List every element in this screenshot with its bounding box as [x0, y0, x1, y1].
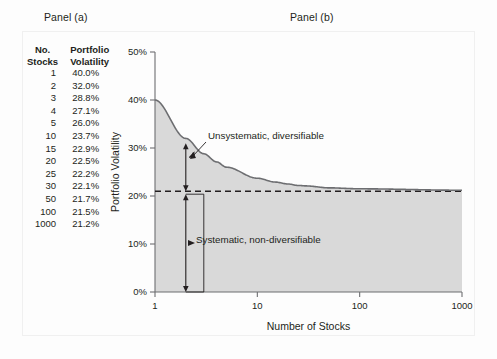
- table-row: 140.0%: [24, 67, 112, 80]
- cell-portfolio-volatility: 26.0%: [66, 117, 112, 130]
- table-row: 232.0%: [24, 80, 112, 93]
- cell-portfolio-volatility: 40.0%: [66, 67, 112, 80]
- table-row: 5021.7%: [24, 193, 112, 206]
- cell-no-stocks: 50: [24, 193, 66, 206]
- table-row: 1522.9%: [24, 143, 112, 156]
- panel-b-title: Panel (b): [290, 11, 334, 23]
- table-row: 100021.2%: [24, 218, 112, 231]
- cell-no-stocks: 1: [24, 67, 66, 80]
- table-body: 140.0%232.0%328.8%427.1%526.0%1023.7%152…: [24, 67, 112, 231]
- cell-portfolio-volatility: 28.8%: [66, 92, 112, 105]
- header-portfolio-volatility: Portfolio Volatility: [66, 44, 112, 67]
- cell-no-stocks: 10: [24, 130, 66, 143]
- cell-portfolio-volatility: 22.9%: [66, 143, 112, 156]
- cell-no-stocks: 100: [24, 206, 66, 219]
- header-portfolio-volatility-line1: Portfolio: [70, 44, 109, 56]
- table-row: 2022.5%: [24, 155, 112, 168]
- cell-no-stocks: 15: [24, 143, 66, 156]
- table-header-row: No. Stocks Portfolio Volatility: [24, 44, 112, 67]
- header-portfolio-volatility-line2: Volatility: [70, 56, 109, 68]
- table-row: 1023.7%: [24, 130, 112, 143]
- panel-a-title: Panel (a): [44, 11, 88, 23]
- cell-portfolio-volatility: 23.7%: [66, 130, 112, 143]
- table-row: 2522.2%: [24, 168, 112, 181]
- cell-no-stocks: 1000: [24, 218, 66, 231]
- cell-no-stocks: 25: [24, 168, 66, 181]
- cell-no-stocks: 4: [24, 105, 66, 118]
- cell-no-stocks: 20: [24, 155, 66, 168]
- table-row: 10021.5%: [24, 206, 112, 219]
- volatility-table: No. Stocks Portfolio Volatility 140.0%23…: [24, 44, 112, 231]
- figure-container: Panel (a) Panel (b) No. Stocks Portfolio…: [0, 0, 497, 359]
- table-row: 3022.1%: [24, 180, 112, 193]
- header-no-stocks: No. Stocks: [24, 44, 66, 67]
- table-row: 526.0%: [24, 117, 112, 130]
- cell-portfolio-volatility: 21.5%: [66, 206, 112, 219]
- table-row: 328.8%: [24, 92, 112, 105]
- cell-no-stocks: 5: [24, 117, 66, 130]
- cell-no-stocks: 3: [24, 92, 66, 105]
- cell-portfolio-volatility: 27.1%: [66, 105, 112, 118]
- header-no-stocks-line2: Stocks: [27, 56, 58, 68]
- cell-portfolio-volatility: 22.5%: [66, 155, 112, 168]
- header-no-stocks-line1: No.: [27, 44, 58, 56]
- cell-portfolio-volatility: 32.0%: [66, 80, 112, 93]
- cell-portfolio-volatility: 21.2%: [66, 218, 112, 231]
- cell-portfolio-volatility: 22.2%: [66, 168, 112, 181]
- cell-portfolio-volatility: 21.7%: [66, 193, 112, 206]
- cell-no-stocks: 2: [24, 80, 66, 93]
- table-row: 427.1%: [24, 105, 112, 118]
- cell-portfolio-volatility: 22.1%: [66, 180, 112, 193]
- cell-no-stocks: 30: [24, 180, 66, 193]
